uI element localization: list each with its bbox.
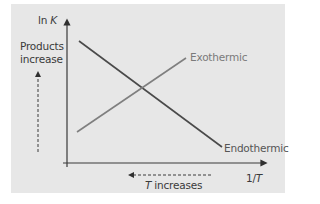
- exothermic-label: Exothermic: [190, 51, 247, 64]
- t-increases-label: T increases: [145, 179, 202, 192]
- y-axis-label: ln K: [38, 14, 57, 27]
- x-axis-label: 1/T: [246, 172, 262, 185]
- products-line1: Products: [20, 40, 56, 53]
- endothermic-label: Endothermic: [224, 142, 288, 155]
- x-axis-label-var: T: [256, 172, 262, 184]
- t-increases-text: increases: [151, 179, 202, 191]
- products-increase-label: Products increase: [20, 40, 56, 66]
- x-axis-label-prefix: 1/: [246, 172, 256, 184]
- products-line2: increase: [20, 53, 56, 66]
- exothermic-line: [77, 58, 186, 132]
- y-axis-label-prefix: ln: [38, 14, 50, 26]
- y-axis-label-var: K: [50, 14, 57, 26]
